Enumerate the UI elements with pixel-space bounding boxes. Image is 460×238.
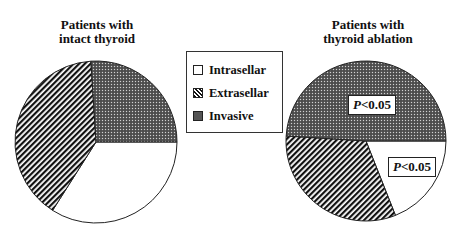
p-value-invasive-label: P<0.05 — [348, 95, 396, 115]
pie-slice-invasive — [91, 61, 177, 142]
legend-item-invasive: Invasive — [193, 109, 253, 123]
right-pie — [286, 61, 446, 221]
legend-item-extrasellar: Extrasellar — [193, 86, 269, 100]
left-pie — [15, 61, 177, 223]
dotted-swatch-icon — [193, 111, 203, 121]
legend-label: Extrasellar — [209, 86, 269, 100]
white-swatch-icon — [193, 65, 203, 75]
legend-label: Invasive — [209, 109, 253, 123]
legend-label: Intrasellar — [209, 63, 266, 77]
legend: Intrasellar Extrasellar Invasive — [186, 51, 283, 133]
p-value-intrasellar-label: P<0.05 — [388, 157, 436, 177]
legend-item-intrasellar: Intrasellar — [193, 63, 266, 77]
hatch-swatch-icon — [193, 88, 203, 98]
